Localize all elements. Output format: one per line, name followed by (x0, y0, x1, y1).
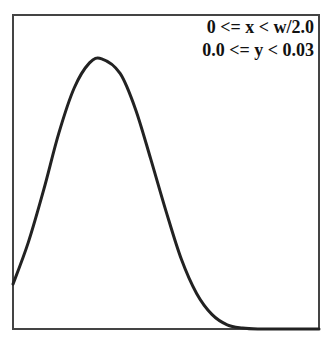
x-range-label: 0 <= x < w/2.0 (207, 17, 314, 38)
density-curve (13, 58, 319, 329)
y-range-label: 0.0 <= y < 0.03 (202, 40, 314, 61)
